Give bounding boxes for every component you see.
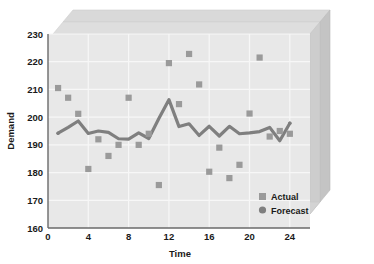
actual-point	[196, 81, 202, 87]
actual-point	[65, 95, 71, 101]
y-tick-180: 180	[27, 167, 43, 178]
y-tick-220: 220	[27, 56, 43, 67]
demand-forecast-chart: 230 220 210 200 190 180 170 160 0 4 8 12…	[0, 0, 374, 264]
x-tick-12: 12	[164, 231, 175, 242]
actual-point	[246, 110, 252, 116]
y-tick-210: 210	[27, 84, 43, 95]
legend-swatch-actual	[259, 193, 266, 200]
legend-swatch-forecast	[259, 206, 266, 213]
actual-point	[75, 111, 81, 117]
forecast-point	[56, 131, 60, 135]
actual-point	[115, 142, 121, 148]
y-tick-170: 170	[27, 195, 43, 206]
actual-point	[166, 60, 172, 66]
chart-container: 230 220 210 200 190 180 170 160 0 4 8 12…	[0, 0, 374, 264]
actual-point	[206, 169, 212, 175]
actual-point	[216, 145, 222, 151]
actual-point	[176, 101, 182, 107]
actual-point	[126, 95, 132, 101]
actual-point	[226, 175, 232, 181]
actual-point	[156, 182, 162, 188]
x-tick-8: 8	[126, 231, 131, 242]
y-tick-200: 200	[27, 112, 43, 123]
y-tick-230: 230	[27, 29, 43, 40]
actual-point	[55, 85, 61, 91]
actual-point	[186, 51, 192, 57]
y-axis-title: Demand	[5, 112, 16, 150]
x-tick-0: 0	[45, 231, 50, 242]
actual-point	[136, 142, 142, 148]
legend-label-forecast: Forecast	[271, 206, 309, 216]
y-tick-160: 160	[27, 223, 43, 234]
legend-label-actual: Actual	[271, 192, 299, 202]
x-axis-title: Time	[169, 248, 191, 259]
y-axis-tick-labels: 230 220 210 200 190 180 170 160	[27, 29, 43, 234]
actual-point	[146, 131, 152, 137]
y-tick-190: 190	[27, 139, 43, 150]
actual-point	[236, 162, 242, 168]
actual-point	[105, 153, 111, 159]
x-tick-24: 24	[285, 231, 296, 242]
x-axis-tick-labels: 0 4 8 12 16 20 24	[45, 231, 295, 242]
actual-point	[277, 128, 283, 134]
x-tick-16: 16	[204, 231, 215, 242]
actual-point	[267, 133, 273, 139]
actual-point	[287, 131, 293, 137]
x-tick-4: 4	[86, 231, 92, 242]
x-tick-20: 20	[244, 231, 255, 242]
actual-point	[95, 136, 101, 142]
actual-point	[85, 166, 91, 172]
forecast-point	[288, 121, 292, 125]
actual-point	[257, 54, 263, 60]
